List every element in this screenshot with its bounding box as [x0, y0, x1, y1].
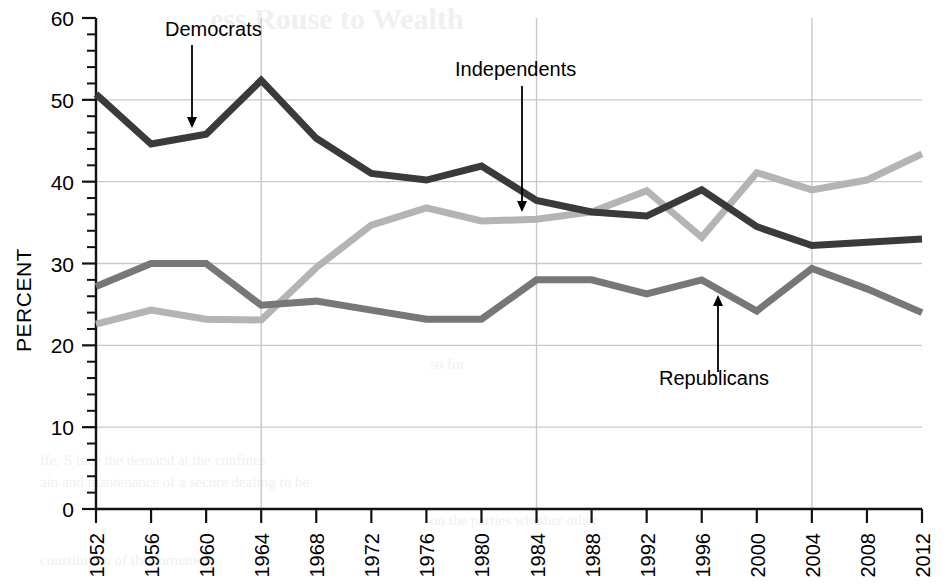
x-tick-label: 1996 — [692, 533, 714, 578]
x-tick-label: 1956 — [141, 533, 163, 578]
annotation-arrow-head-icon — [517, 201, 527, 212]
y-axis-tick-labels: 0102030405060 — [51, 7, 74, 521]
chart-container: ess Rouse to Wealthso forffe, S ince the… — [0, 0, 949, 585]
x-tick-label: 1988 — [582, 533, 604, 578]
x-tick-label: 1968 — [306, 533, 328, 578]
x-tick-label: 2000 — [747, 533, 769, 578]
y-axis-ticks — [82, 18, 96, 509]
x-tick-label: 1964 — [251, 533, 273, 578]
x-tick-label: 1976 — [416, 533, 438, 578]
x-tick-label: 2012 — [912, 533, 934, 578]
x-tick-label: 2004 — [802, 533, 824, 578]
annotation-label-republicans: Republicans — [659, 367, 769, 389]
y-tick-label: 10 — [51, 416, 74, 439]
y-tick-label: 50 — [51, 89, 74, 112]
data-series-lines — [96, 80, 922, 324]
x-tick-label: 1960 — [196, 533, 218, 578]
party-identification-line-chart: 0102030405060 19521956196019641968197219… — [0, 0, 949, 585]
x-tick-label: 1980 — [471, 533, 493, 578]
y-axis-title: PERCENT — [12, 248, 35, 352]
annotation-arrow-head-icon — [187, 117, 197, 128]
x-tick-label: 1972 — [361, 533, 383, 578]
horizontal-gridlines — [96, 100, 922, 427]
annotation-label-independents: Independents — [455, 58, 576, 80]
x-tick-label: 1984 — [527, 533, 549, 578]
x-tick-label: 1992 — [637, 533, 659, 578]
y-tick-label: 60 — [51, 7, 74, 30]
annotation-arrow-head-icon — [713, 295, 723, 306]
y-tick-label: 0 — [62, 498, 74, 521]
x-tick-label: 2008 — [857, 533, 879, 578]
y-tick-label: 30 — [51, 253, 74, 276]
x-axis-tick-labels: 1952195619601964196819721976198019841988… — [86, 533, 934, 578]
series-line-republicans — [96, 264, 922, 320]
x-tick-label: 1952 — [86, 533, 108, 578]
y-tick-label: 20 — [51, 334, 74, 357]
x-axis-ticks — [96, 509, 922, 523]
y-tick-label: 40 — [51, 171, 74, 194]
annotation-label-democrats: Democrats — [165, 18, 262, 40]
